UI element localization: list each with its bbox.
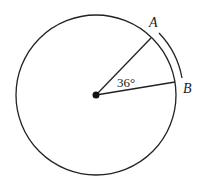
arc-ab-highlight [159, 33, 182, 78]
point-label-a: A [148, 15, 158, 30]
center-point [93, 92, 100, 99]
angle-label: 36° [117, 75, 135, 90]
diagram-canvas: A B 36° [0, 0, 198, 184]
radius-to-b [96, 82, 175, 95]
point-label-b: B [183, 81, 192, 96]
circle-diagram: A B 36° [0, 0, 198, 184]
